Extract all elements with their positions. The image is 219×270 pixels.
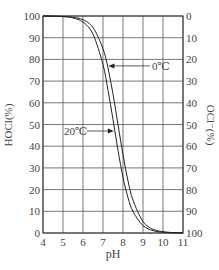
annotations: 0℃ 20℃	[64, 60, 170, 137]
x-tick-label: 5	[60, 236, 66, 248]
left-tick-label: 70	[29, 75, 41, 87]
x-tick-label: 4	[40, 236, 46, 248]
left-tick-label: 50	[29, 119, 41, 131]
left-tick-label: 100	[24, 10, 41, 22]
right-tick-label: 70	[186, 162, 198, 174]
x-tick-label: 11	[178, 236, 189, 248]
right-tick-label: 50	[186, 119, 198, 131]
hocl-ocl-ph-chart: 0102030405060708090100 10090807060504030…	[0, 0, 219, 270]
right-axis-title: OCl⁻(%)	[204, 105, 217, 146]
left-tick-label: 80	[29, 53, 41, 65]
x-tick-label: 9	[140, 236, 146, 248]
right-tick-label: 60	[186, 140, 198, 152]
left-tick-label: 20	[29, 184, 41, 196]
left-axis-tick-labels: 0102030405060708090100	[24, 10, 41, 239]
annotation-0c: 0℃	[152, 60, 170, 72]
right-tick-label: 40	[186, 97, 198, 109]
right-tick-label: 10	[186, 32, 198, 44]
left-tick-label: 40	[29, 140, 41, 152]
x-axis-title: pH	[106, 247, 121, 261]
left-tick-label: 30	[29, 162, 41, 174]
left-axis-title: HOCl(%)	[2, 103, 15, 146]
x-tick-label: 6	[80, 236, 86, 248]
x-tick-label: 10	[158, 236, 170, 248]
arrowhead-0c-icon	[108, 63, 114, 68]
left-tick-label: 10	[29, 205, 41, 217]
arrowhead-20c-icon	[108, 129, 114, 134]
x-tick-label: 8	[120, 236, 126, 248]
right-tick-label: 0	[186, 10, 192, 22]
right-tick-label: 90	[186, 205, 198, 217]
left-tick-label: 90	[29, 32, 41, 44]
right-tick-label: 30	[186, 75, 198, 87]
right-axis-tick-labels: 1009080706050403020100	[186, 10, 203, 239]
right-tick-label: 20	[186, 53, 198, 65]
right-tick-label: 100	[186, 227, 203, 239]
annotation-20c: 20℃	[64, 125, 87, 137]
left-tick-label: 60	[29, 97, 41, 109]
right-tick-label: 80	[186, 184, 198, 196]
